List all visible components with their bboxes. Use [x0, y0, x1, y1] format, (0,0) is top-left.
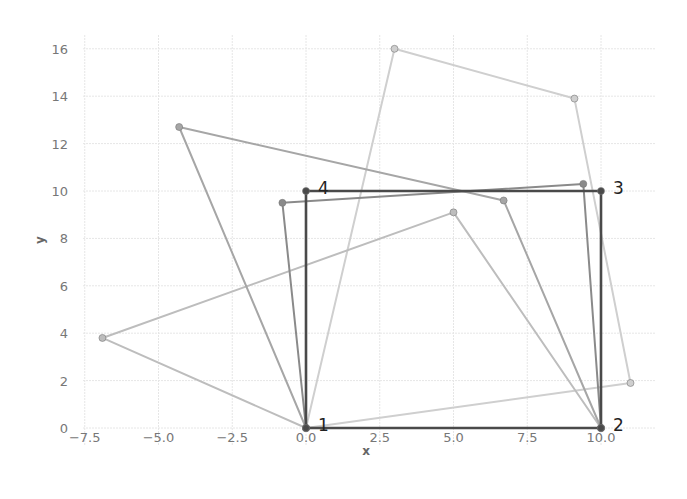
vertex-marker	[627, 379, 634, 386]
y-tick-label: 12	[51, 137, 68, 152]
y-tick-label: 2	[60, 374, 68, 389]
y-tick-label: 8	[60, 231, 68, 246]
polygon-line	[179, 127, 601, 428]
chart: 1234 −7.5−5.0−2.50.02.55.07.510.00246810…	[0, 0, 687, 499]
y-tick-label: 0	[60, 421, 68, 436]
vertex-labels: 1234	[318, 178, 624, 435]
y-axis-label: y	[33, 236, 47, 244]
vertex-marker	[391, 45, 398, 52]
x-tick-label: 2.5	[369, 430, 390, 445]
y-tick-label: 6	[60, 279, 68, 294]
tick-labels: −7.5−5.0−2.50.02.55.07.510.0024681012141…	[51, 42, 615, 445]
vertex-marker	[571, 95, 578, 102]
vertex-marker	[99, 334, 106, 341]
x-tick-label: 5.0	[443, 430, 464, 445]
vertex-label-3: 3	[613, 178, 624, 198]
polygon-line	[102, 212, 601, 428]
x-tick-label: 0.0	[296, 430, 317, 445]
vertex-marker	[500, 197, 507, 204]
y-tick-label: 10	[51, 184, 68, 199]
vertex-marker	[598, 188, 605, 195]
y-tick-label: 16	[51, 42, 68, 57]
vertex-label-1: 1	[318, 415, 329, 435]
vertex-marker	[450, 209, 457, 216]
vertex-marker	[580, 180, 587, 187]
x-tick-label: −5.0	[143, 430, 175, 445]
x-axis-label: x	[362, 444, 370, 458]
vertex-marker	[279, 199, 286, 206]
x-tick-label: −7.5	[69, 430, 101, 445]
y-tick-label: 14	[51, 89, 68, 104]
vertex-label-4: 4	[318, 178, 329, 198]
x-tick-label: −2.5	[216, 430, 248, 445]
x-tick-label: 7.5	[517, 430, 538, 445]
series-polygon-3	[176, 124, 605, 432]
x-tick-label: 10.0	[587, 430, 616, 445]
y-tick-label: 4	[60, 326, 68, 341]
polygon-line	[282, 184, 601, 428]
vertex-marker	[176, 124, 183, 131]
vertex-marker	[303, 188, 310, 195]
